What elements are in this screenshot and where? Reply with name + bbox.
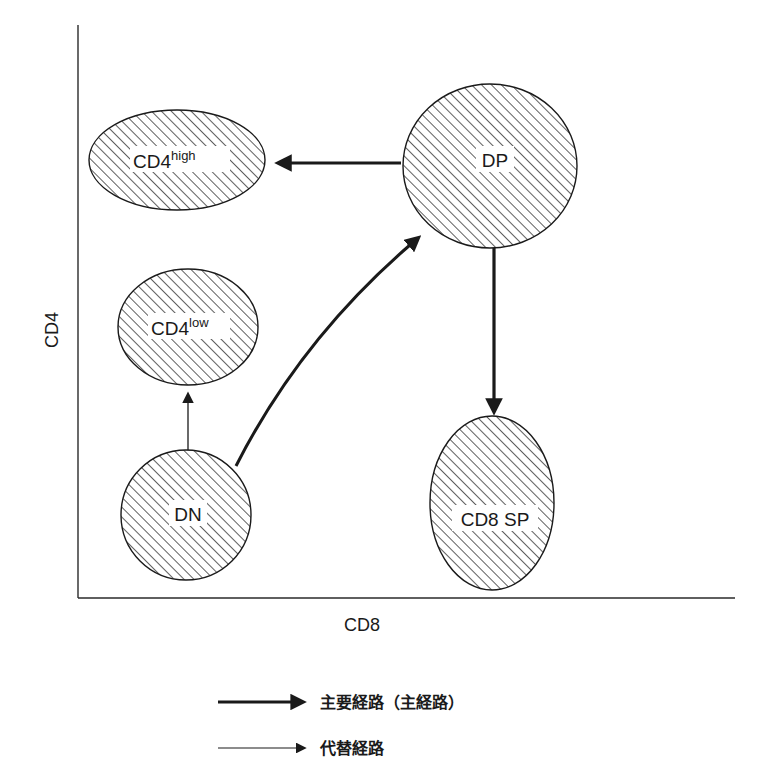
node-cd8sp: CD8 SP — [430, 416, 554, 590]
node-cd4low: CD4low — [118, 269, 258, 385]
legend-major-label: 主要経路（主経路） — [320, 693, 464, 712]
y-axis-label: CD4 — [42, 312, 62, 348]
cd4high-label-sup: high — [171, 148, 196, 163]
node-dp: DP — [403, 84, 577, 248]
node-dn: DN — [121, 450, 251, 580]
cd4high-label-base: CD4 — [133, 151, 171, 172]
cd8sp-label: CD8 SP — [461, 509, 530, 530]
cd8sp-ellipse — [430, 416, 554, 590]
legend-alternative-label: 代替経路 — [319, 739, 385, 758]
dp-label: DP — [482, 150, 508, 171]
legend-item-alternative: 代替経路 — [218, 739, 385, 758]
cd4low-label-base: CD4 — [151, 318, 189, 339]
cd4low-label-sup: low — [189, 315, 209, 330]
t-cell-development-diagram: CD4 CD8 CD4high DP CD4low DN CD8 SP — [0, 0, 780, 779]
legend-item-major: 主要経路（主経路） — [218, 693, 464, 712]
edge-dn-to-dp — [236, 245, 410, 466]
legend: 主要経路（主経路） 代替経路 — [218, 693, 464, 758]
x-axis-label: CD8 — [344, 615, 380, 635]
dn-label: DN — [174, 504, 201, 525]
node-cd4high: CD4high — [89, 110, 265, 210]
